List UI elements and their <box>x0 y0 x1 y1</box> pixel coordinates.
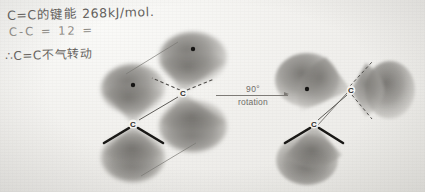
paper-vignette-overlay <box>0 0 425 192</box>
